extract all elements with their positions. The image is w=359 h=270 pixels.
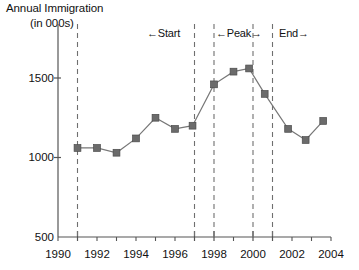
x-tick-label-1990: 1990 [38, 248, 78, 260]
data-point-marker [94, 145, 101, 152]
data-point-marker [261, 91, 268, 98]
data-point-marker [285, 125, 292, 132]
x-tick-label-1992: 1992 [77, 248, 117, 260]
data-point-marker [152, 114, 159, 121]
data-point-marker [74, 145, 81, 152]
end-band-label: End→ [279, 27, 309, 39]
x-tick-label-1994: 1994 [116, 248, 156, 260]
x-tick-label-2004: 2004 [311, 248, 351, 260]
data-point-marker [211, 81, 218, 88]
x-tick-label-2002: 2002 [272, 248, 312, 260]
data-point-marker [133, 135, 140, 142]
peak-band-label: ←Peak→ [216, 27, 262, 39]
y-tick-label-1000: 1000 [14, 151, 54, 163]
x-tick-label-1998: 1998 [194, 248, 234, 260]
data-point-marker [246, 65, 253, 72]
data-point-marker [172, 125, 179, 132]
data-point-marker [189, 122, 196, 129]
immigration-line-chart: Annual Immigration (in 000s) 1500 1000 5… [0, 0, 359, 270]
y-tick-label-500: 500 [14, 231, 54, 243]
start-band-label: ←Start [147, 27, 180, 39]
y-tick-label-1500: 1500 [14, 72, 54, 84]
series-line [78, 68, 324, 152]
x-tick-label-1996: 1996 [155, 248, 195, 260]
plot-area [0, 0, 359, 270]
data-point-marker [302, 137, 309, 144]
data-series-group [74, 65, 326, 156]
data-point-marker [320, 118, 327, 125]
data-point-marker [230, 68, 237, 75]
data-point-marker [113, 149, 120, 156]
x-tick-label-2000: 2000 [233, 248, 273, 260]
